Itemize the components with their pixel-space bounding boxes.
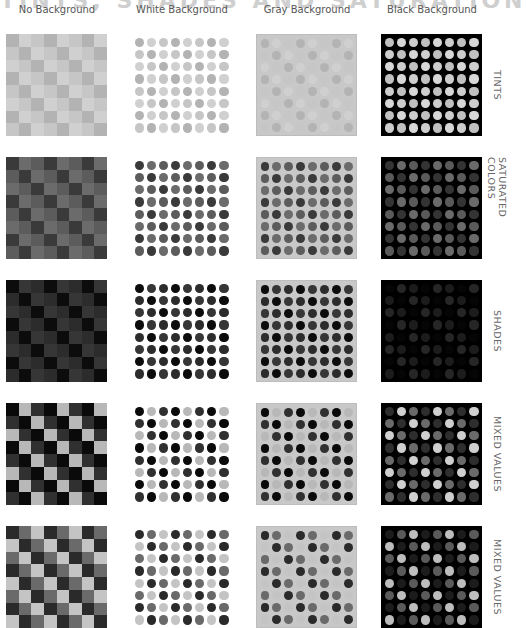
checker-cell <box>6 577 19 590</box>
checker-cell <box>19 369 32 382</box>
dot <box>397 480 406 489</box>
dot <box>433 542 442 551</box>
dot <box>397 246 406 255</box>
dot <box>171 296 180 305</box>
dot <box>469 222 478 231</box>
dot <box>433 173 442 182</box>
dot <box>284 285 293 294</box>
dot <box>320 480 329 489</box>
dot <box>147 197 156 206</box>
dot <box>445 407 454 416</box>
dot <box>308 408 317 417</box>
dot <box>385 161 394 170</box>
dot <box>421 50 430 59</box>
dot <box>409 443 418 452</box>
checker-cell <box>6 480 19 493</box>
dot <box>457 431 466 440</box>
dot <box>195 431 204 440</box>
dot <box>457 161 466 170</box>
dot <box>135 222 144 231</box>
dot <box>445 591 454 600</box>
dot <box>183 161 192 170</box>
checker-cell <box>44 85 57 98</box>
checker-cell <box>69 72 82 85</box>
dot <box>385 50 394 59</box>
dot <box>261 174 270 183</box>
dot <box>332 285 341 294</box>
dot <box>219 284 228 293</box>
dot <box>409 38 418 47</box>
dot <box>409 246 418 255</box>
dot <box>296 543 305 552</box>
checker-cell <box>57 416 70 429</box>
dot <box>272 63 281 72</box>
dot <box>320 87 329 96</box>
dot <box>409 530 418 539</box>
dot <box>332 579 341 588</box>
dot <box>135 431 144 440</box>
dot <box>445 123 454 132</box>
dot <box>308 579 317 588</box>
dot <box>320 63 329 72</box>
dot <box>409 566 418 575</box>
dot <box>183 308 192 317</box>
checker-cell <box>6 492 19 505</box>
checker-cell <box>6 416 19 429</box>
dot <box>284 75 293 84</box>
dot <box>159 615 168 624</box>
dot <box>296 246 305 255</box>
dot <box>469 308 478 317</box>
checker-cell <box>69 403 82 416</box>
dot <box>195 615 204 624</box>
dot <box>147 480 156 489</box>
dot <box>457 296 466 305</box>
dot <box>159 38 168 47</box>
dot <box>344 246 353 255</box>
dot <box>445 210 454 219</box>
dot <box>195 320 204 329</box>
checker-cell <box>6 293 19 306</box>
dot <box>344 615 353 624</box>
checker-cell <box>82 492 95 505</box>
dot <box>332 603 341 612</box>
dot <box>445 50 454 59</box>
checker-cell <box>44 590 57 603</box>
dot <box>296 468 305 477</box>
dot <box>385 357 394 366</box>
dot <box>284 333 293 342</box>
dot <box>469 197 478 206</box>
dot <box>320 591 329 600</box>
checker-cell <box>31 195 44 208</box>
dot <box>261 432 270 441</box>
checker-cell <box>57 369 70 382</box>
dot <box>219 50 228 59</box>
dot <box>171 284 180 293</box>
dot <box>284 39 293 48</box>
dot <box>284 309 293 318</box>
dot <box>195 185 204 194</box>
dot <box>261 75 270 84</box>
dot <box>308 357 317 366</box>
checker-cell <box>57 60 70 73</box>
dot <box>159 308 168 317</box>
dot <box>135 591 144 600</box>
dot <box>308 297 317 306</box>
dot <box>159 419 168 428</box>
dot <box>397 308 406 317</box>
dot <box>296 579 305 588</box>
dot <box>433 419 442 428</box>
dot <box>195 345 204 354</box>
dot <box>308 480 317 489</box>
checker-cell <box>57 403 70 416</box>
dot <box>332 186 341 195</box>
dot <box>219 197 228 206</box>
dot <box>457 591 466 600</box>
dot <box>135 111 144 120</box>
dot <box>308 87 317 96</box>
dot <box>397 591 406 600</box>
dot <box>261 222 270 231</box>
checker-cell <box>94 369 107 382</box>
checker-cell <box>6 47 19 60</box>
dot <box>385 345 394 354</box>
dot <box>385 480 394 489</box>
